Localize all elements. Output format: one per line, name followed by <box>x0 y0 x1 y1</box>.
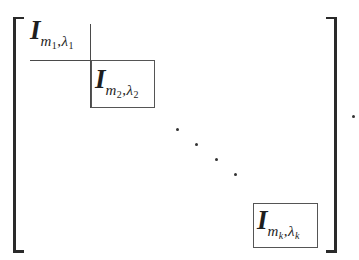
block-k-sub-var1: m <box>268 223 279 239</box>
block-k-sub-var2: λ <box>288 223 295 239</box>
ellipsis-dot <box>234 173 237 176</box>
ellipsis-dot <box>195 143 198 146</box>
block-1-bottom-border <box>30 60 90 61</box>
block-2-sub-idx1: 2 <box>117 89 123 100</box>
block-2-sub-idx2: 2 <box>134 89 140 100</box>
ellipsis-dot <box>215 158 218 161</box>
block-2-sub-var1: m <box>106 82 117 98</box>
block-k-subscript: mk,λk <box>268 223 301 239</box>
block-k-label: Imk,λk <box>257 207 300 234</box>
block-2-main: I <box>95 64 106 94</box>
block-1-subscript: m1,λ1 <box>41 33 75 49</box>
ellipsis-dot <box>176 128 179 131</box>
block-1-main: I <box>30 15 41 45</box>
block-1-sub-idx2: 1 <box>69 40 75 51</box>
block-1-sub-var1: m <box>41 33 52 49</box>
block-1-label: Im1,λ1 <box>30 17 74 44</box>
block-k-main: I <box>257 205 268 235</box>
trailing-period <box>352 115 355 118</box>
block-2-label: Im2,λ2 <box>95 66 139 93</box>
block-k-sub-idx2: k <box>295 230 300 241</box>
block-2-sub-var2: λ <box>127 82 134 98</box>
block-k-sub-idx1: k <box>279 230 284 241</box>
block-1-sub-idx1: 1 <box>52 40 58 51</box>
block-1-sub-var2: λ <box>62 33 69 49</box>
block-2-subscript: m2,λ2 <box>106 82 140 98</box>
